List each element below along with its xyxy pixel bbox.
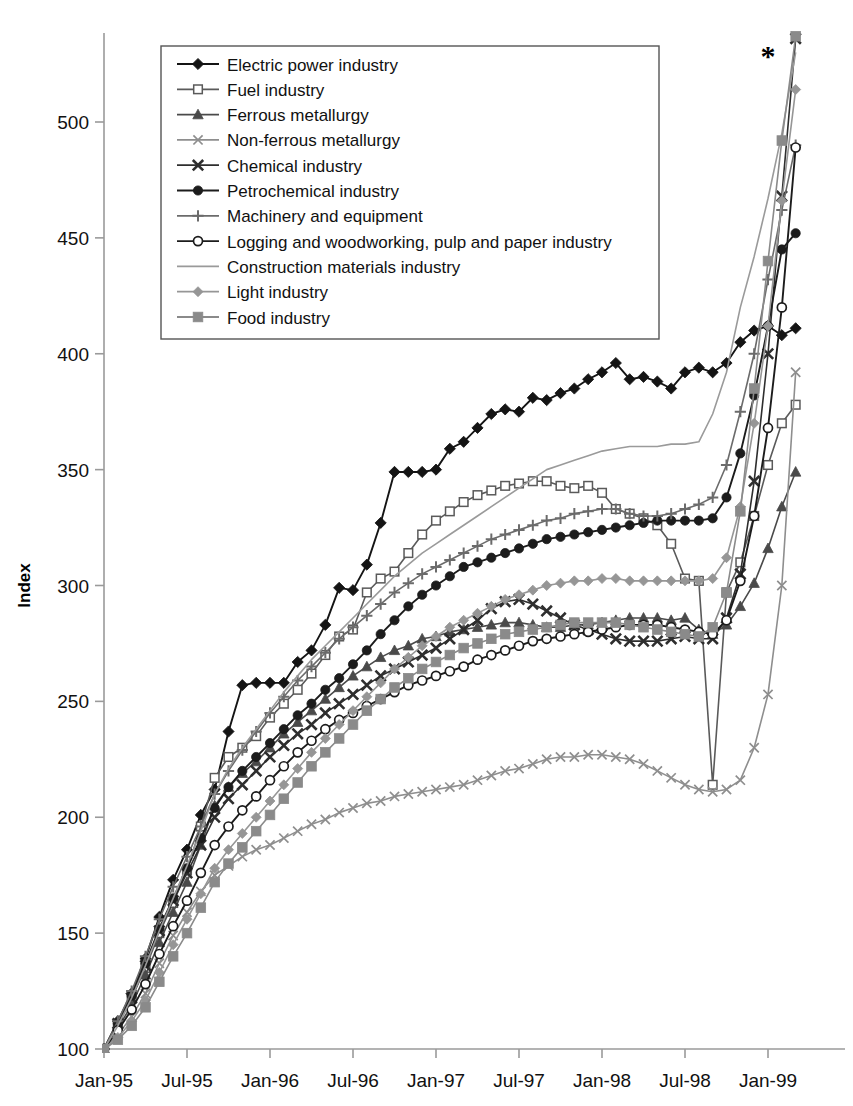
data-point-marker [583,506,594,517]
data-point-marker [389,466,400,477]
data-point-marker [596,503,607,514]
data-point-marker [155,977,165,987]
data-point-marker [750,511,759,520]
data-point-marker [486,534,497,545]
data-point-marker [376,630,385,639]
data-point-marker [542,622,552,632]
data-point-marker [293,778,303,788]
chart-page: 100150200250300350400450500Jan-95Jul-95J… [0,0,853,1106]
data-point-marker [348,689,358,699]
data-point-marker [680,613,690,623]
data-point-marker [293,711,302,720]
data-point-marker [597,618,607,628]
data-point-marker [556,620,566,630]
data-point-marker [210,774,219,783]
data-point-marker [777,501,787,511]
x-axis-tick-label: Jul-98 [659,1070,711,1091]
data-point-marker [487,486,496,495]
data-point-marker [667,773,676,782]
x-axis-tick-label: Jan-97 [407,1070,465,1091]
data-point-marker [541,395,552,406]
data-point-marker [638,371,649,382]
x-axis-tick-label: Jan-95 [75,1070,133,1091]
data-point-marker [486,601,496,611]
data-point-marker [735,601,745,611]
y-axis-tick-label: 450 [57,228,89,249]
data-point-marker [417,650,427,660]
data-point-marker [292,729,302,739]
data-point-marker [708,622,718,632]
y-axis-tick-label: 200 [57,807,89,828]
data-point-marker [238,766,247,775]
data-point-marker [584,482,593,491]
data-point-marker [404,673,414,683]
data-point-marker [541,606,551,616]
legend-item[interactable]: Logging and woodworking, pulp and paper … [177,233,612,252]
y-axis-tick-label: 350 [57,460,89,481]
data-point-marker [652,376,663,387]
data-point-marker [293,748,302,757]
data-point-marker [459,643,469,653]
data-point-marker [597,525,606,534]
data-point-marker [196,868,205,877]
data-point-marker [473,491,482,500]
data-point-marker [708,574,718,584]
data-point-marker [527,520,538,531]
data-point-marker [238,843,248,853]
y-axis-tick-label: 300 [57,576,89,597]
data-point-marker [528,759,537,768]
data-point-marker [307,820,316,829]
data-point-marker [514,590,524,600]
data-point-marker [542,581,552,591]
y-axis-tick-label: 400 [57,344,89,365]
legend: Electric power industryFuel industryFerr… [161,46,659,339]
data-point-marker [473,776,482,785]
data-point-marker [265,738,274,747]
data-point-marker [791,229,800,238]
data-point-marker [168,952,178,962]
data-point-marker [127,1021,137,1031]
data-point-marker [707,492,718,503]
data-point-marker [569,508,580,519]
data-point-marker [528,599,538,609]
data-point-marker [528,637,537,646]
data-point-marker [459,498,468,507]
data-point-marker [347,585,358,596]
legend-item-label: Non-ferrous metallurgy [227,131,400,150]
data-point-marker [265,752,275,762]
data-point-marker [487,634,497,644]
data-point-marker [417,568,428,579]
data-point-marker [252,792,261,801]
data-point-marker [555,388,566,399]
data-point-marker [431,581,440,590]
data-point-marker [390,616,399,625]
series-line [99,368,800,1054]
data-point-marker [487,553,496,562]
data-point-marker [362,680,372,690]
legend-item-label: Light industry [227,283,329,302]
data-point-marker [113,1035,123,1045]
data-point-marker [569,576,579,586]
data-point-marker [376,694,386,704]
data-point-marker [431,657,441,667]
data-point-marker [432,671,441,680]
data-point-marker [362,646,371,655]
data-point-marker [542,477,551,486]
data-point-marker [403,640,413,650]
data-point-marker [182,928,192,938]
data-point-marker [556,578,566,588]
data-point-marker [750,743,759,752]
data-point-marker [749,578,759,588]
data-point-marker [680,516,689,525]
data-point-marker [224,859,234,869]
data-point-marker [194,85,203,94]
data-point-marker [764,461,773,470]
data-point-marker [625,620,635,630]
data-point-marker [224,822,233,831]
data-point-marker [418,590,427,599]
data-point-marker [193,186,202,195]
data-point-marker [625,521,634,530]
data-point-marker [500,529,511,540]
data-point-marker [141,980,150,989]
data-point-marker [307,736,316,745]
